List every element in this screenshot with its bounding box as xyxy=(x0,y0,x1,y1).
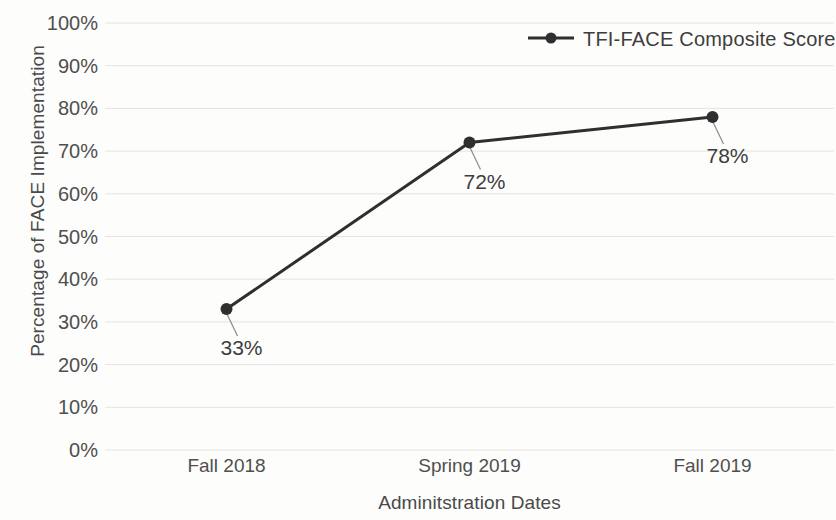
data-point-value-label: 72% xyxy=(463,170,505,194)
x-axis-tick-label: Spring 2019 xyxy=(418,455,520,477)
x-axis-tick-label: Fall 2018 xyxy=(187,455,265,477)
chart-legend: TFI-FACE Composite Score xyxy=(528,28,836,51)
data-point-value-label: 33% xyxy=(220,336,262,360)
legend-entry-label: TFI-FACE Composite Score xyxy=(583,28,836,51)
data-point-value-label: 78% xyxy=(706,144,748,168)
legend-line-marker-icon xyxy=(528,30,574,46)
x-axis-tick-label: Fall 2019 xyxy=(673,455,751,477)
legend-marker-icon xyxy=(528,30,574,50)
x-axis-title: Adminitstration Dates xyxy=(105,492,834,514)
x-axis-tick-labels: Fall 2018Spring 2019Fall 2019 xyxy=(105,455,834,485)
